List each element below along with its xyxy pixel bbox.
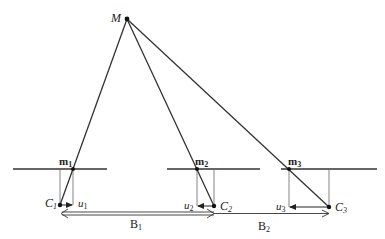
label-m3: m3 — [288, 155, 301, 169]
ray-2 — [127, 19, 214, 206]
baseline-arrows — [61, 209, 329, 218]
point-C2 — [212, 204, 216, 208]
point-m3 — [287, 167, 291, 171]
label-M: M — [110, 11, 122, 25]
label-u1: u1 — [78, 197, 88, 211]
label-C2: C2 — [220, 199, 232, 214]
label-B2: B2 — [258, 219, 270, 234]
point-m2 — [195, 167, 199, 171]
label-u2: u2 — [184, 199, 194, 213]
label-C1: C1 — [45, 196, 57, 211]
label-m2: m2 — [195, 155, 208, 169]
point-M — [125, 17, 130, 22]
ray-3 — [127, 19, 329, 207]
label-u3: u3 — [276, 200, 286, 214]
ray-1 — [60, 19, 127, 205]
diagram-svg: M m1 m2 m3 C1 C2 C3 u1 u2 u3 B1 B2 — [0, 0, 385, 239]
vertical-guides — [60, 169, 329, 207]
label-m1: m1 — [59, 155, 72, 169]
label-B1: B1 — [130, 217, 142, 232]
point-C1 — [58, 203, 62, 207]
point-C3 — [327, 205, 331, 209]
projection-diagram: M m1 m2 m3 C1 C2 C3 u1 u2 u3 B1 B2 — [0, 0, 385, 239]
label-C3: C3 — [335, 200, 347, 215]
points — [58, 17, 331, 210]
